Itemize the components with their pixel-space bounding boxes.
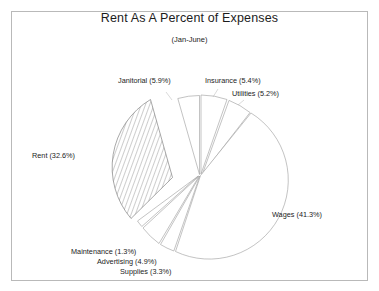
screenshot-root: Rent As A Percent of Expenses (Jan-June)… — [0, 0, 379, 291]
pie-label-janitorial: Janitorial (5.9%) — [118, 77, 171, 84]
leader-line-insurance — [213, 89, 218, 97]
pie-slice-janitorial[interactable] — [178, 95, 200, 174]
leader-line-utilities — [238, 100, 244, 105]
pie-label-insurance: Insurance (5.4%) — [205, 77, 261, 84]
pie-label-supplies: Supplies (3.3%) — [120, 268, 172, 275]
pie-label-rent: Rent (32.6%) — [32, 152, 75, 159]
leader-line-janitorial — [166, 92, 172, 100]
pie-label-maintenance: Maintenance (1.3%) — [71, 248, 136, 255]
pie-slice-rent[interactable] — [112, 100, 172, 219]
pie-chart-graphic — [0, 0, 379, 291]
pie-label-utilities: Utilities (5.2%) — [232, 90, 279, 97]
pie-label-wages: Wages (41.3%) — [272, 211, 322, 218]
pie-label-advertising: Advertising (4.9%) — [97, 258, 157, 265]
